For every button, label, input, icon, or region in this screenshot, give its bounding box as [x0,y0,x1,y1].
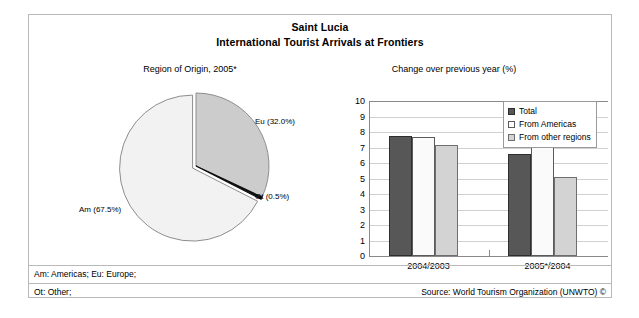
y-axis-tick-label: 6 [335,159,365,168]
x-axis-tick-label: 2004/2003 [369,261,488,271]
x-axis-tick-label: 2005*/2004 [488,261,607,271]
footer-abbreviations-line-2: Ot: Other; [34,287,71,298]
y-axis-tick-label: 4 [335,190,365,199]
bar-other [554,177,577,256]
bar-chart-legend: TotalFrom AmericasFrom other regions [503,101,597,148]
pie-label-americas: Am (67.5%) [79,205,121,215]
legend-item: Total [508,105,591,118]
legend-label: Total [519,107,537,116]
bar-chart-caption: Change over previous year (%) [329,63,579,75]
y-axis-tick-label: 3 [335,206,365,215]
screenshot-root: Saint Lucia International Tourist Arriva… [0,0,639,318]
legend-label: From other regions [519,133,591,142]
legend-item: From Americas [508,118,591,131]
bar-amer [412,137,435,256]
pie-chart-caption: Region of Origin, 2005* [65,63,315,75]
title-block: Saint Lucia International Tourist Arriva… [29,20,611,50]
pie-label-europe: Eu (32.0%) [255,117,295,127]
bar-other [435,145,458,256]
pie-chart-svg [59,81,329,256]
legend-label: From Americas [519,120,576,129]
bar-chart: 109876543210 TotalFrom AmericasFrom othe… [331,81,617,271]
footer-source: Source: World Tourism Organization (UNWT… [421,287,606,298]
footer-divider-bottom [29,283,611,284]
y-axis-tick-label: 7 [335,144,365,153]
x-axis-group-separator [489,250,490,256]
bar-total [508,154,531,256]
y-axis-tick-label: 10 [335,97,365,106]
bar-chart-y-axis: 109876543210 [331,101,365,256]
bar-total [389,136,412,256]
footer-abbreviations-line-1: Am: Americas; Eu: Europe; [34,269,136,280]
legend-swatch-icon [508,121,515,128]
y-axis-tick-label: 1 [335,237,365,246]
footer-divider-top [29,265,611,266]
legend-item: From other regions [508,131,591,144]
pie-chart: Eu (32.0%) Am (67.5%) Ot (0.5%) [59,81,329,256]
y-axis-tick-label: 2 [335,221,365,230]
legend-swatch-icon [508,108,515,115]
page-title: Saint Lucia [29,20,611,35]
y-axis-tick-label: 5 [335,175,365,184]
chart-frame: Saint Lucia International Tourist Arriva… [28,14,612,298]
page-subtitle: International Tourist Arrivals at Fronti… [29,35,611,50]
pie-label-other: Ot (0.5%) [255,192,289,202]
y-axis-tick-label: 9 [335,113,365,122]
y-axis-tick-label: 8 [335,128,365,137]
y-axis-tick-label: 0 [335,252,365,261]
legend-swatch-icon [508,134,515,141]
